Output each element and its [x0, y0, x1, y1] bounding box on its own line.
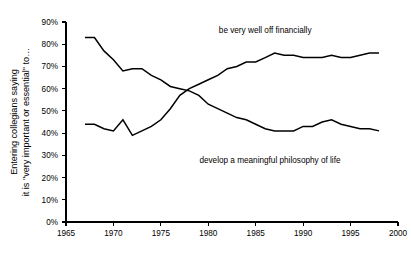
x-tick-label: 2000: [389, 229, 408, 238]
y-tick-label: 70%: [42, 62, 58, 71]
line-chart: Entering collegians saying it is "very i…: [0, 0, 411, 266]
x-tick-label: 1975: [152, 229, 171, 238]
y-tick-label: 10%: [42, 196, 58, 205]
series-annotations: be very well off financiallydevelop a me…: [199, 26, 341, 165]
y-tick-label: 30%: [42, 151, 58, 160]
series-line-philosophy: [85, 38, 379, 131]
y-tick-label: 60%: [42, 85, 58, 94]
y-tick-label: 20%: [42, 174, 58, 183]
y-axis-label: Entering collegians saying it is "very i…: [9, 48, 31, 196]
series-line-financial: [85, 53, 379, 135]
y-tick-label: 0%: [46, 218, 58, 227]
y-tick-label: 40%: [42, 129, 58, 138]
series-annotation: be very well off financially: [219, 26, 313, 35]
series-annotation: develop a meaningful philosophy of life: [199, 156, 341, 165]
x-tick-label: 1985: [247, 229, 266, 238]
y-tick-label: 80%: [42, 40, 58, 49]
x-tick-label: 1980: [199, 229, 218, 238]
x-axis-tick-labels: 19651970197519801985199019952000: [57, 229, 408, 238]
y-axis-label-line2: it is "very important or essential" to…: [21, 48, 31, 196]
chart-container: Entering collegians saying it is "very i…: [0, 0, 411, 266]
y-axis-label-line1: Entering collegians saying: [9, 69, 19, 175]
x-tick-label: 1970: [104, 229, 123, 238]
x-tick-label: 1965: [57, 229, 76, 238]
y-tick-label: 50%: [42, 107, 58, 116]
x-tick-label: 1995: [341, 229, 360, 238]
y-tick-label: 90%: [42, 18, 58, 27]
x-tick-label: 1990: [294, 229, 313, 238]
y-axis-tick-labels: 0%10%20%30%40%50%60%70%80%90%: [42, 18, 58, 227]
